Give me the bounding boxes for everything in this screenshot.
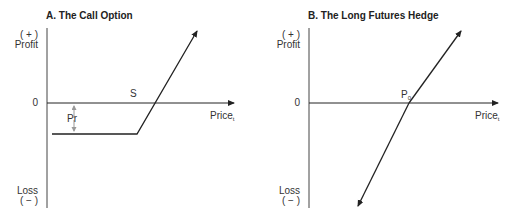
payoff-line-down	[358, 103, 409, 206]
profit-label: Profit	[272, 40, 300, 50]
long-futures-hedge-panel: B. The Long Futures Hedge ( + ) Profit 0…	[256, 0, 512, 222]
price-axis-label: Pricet	[475, 111, 499, 124]
panel-title: A. The Call Option	[46, 10, 133, 21]
price-axis-label: Pricet	[210, 111, 234, 124]
zero-label: 0	[24, 98, 38, 108]
zero-label: 0	[286, 98, 300, 108]
initial-price-label: P0	[401, 90, 411, 103]
loss-sign-label: ( − )	[14, 196, 38, 206]
loss-sign-label: ( − )	[276, 196, 300, 206]
profit-label: Profit	[10, 40, 38, 50]
premium-label: Pr	[67, 114, 77, 124]
panel-title: B. The Long Futures Hedge	[308, 10, 439, 21]
payoff-line-up	[409, 31, 461, 103]
strike-label: S	[130, 89, 137, 99]
call-option-panel: A. The Call Option ( + ) Profit 0 Loss (…	[0, 0, 256, 222]
